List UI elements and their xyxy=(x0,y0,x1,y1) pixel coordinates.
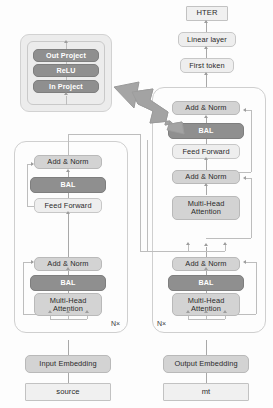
node-hter: HTER xyxy=(186,6,228,21)
encoder-repeat-label: N× xyxy=(111,320,120,327)
diagram-canvas: HTER Linear layer First token Out Projec… xyxy=(0,0,273,408)
encoder-output-into-crossattn xyxy=(140,251,206,252)
decoder-arrowhead-cross xyxy=(204,243,208,246)
decoder-selfattn-fan-ah-right xyxy=(223,310,227,313)
encoder-residual2-left xyxy=(27,164,28,206)
decoder-crossattn-fan-left xyxy=(188,244,189,251)
node-out-project: Out Project xyxy=(33,49,99,62)
node-encoder-bal-1: BAL xyxy=(30,275,106,291)
decoder-residual3-arrowhead xyxy=(243,108,246,112)
node-decoder-add-norm-2: Add & Norm xyxy=(172,170,240,184)
node-decoder-cross-attention: Multi-Head Attention xyxy=(172,196,240,220)
decoder-residual2-right xyxy=(251,178,252,238)
decoder-spine-addnorm1-to-cross xyxy=(206,247,207,257)
connector-decoder-to-firsttoken xyxy=(206,73,207,87)
decoder-residual3-top xyxy=(246,110,251,111)
node-output-embedding: Output Embedding xyxy=(163,355,249,373)
connector-inputembed-to-encoder xyxy=(68,340,69,356)
decoder-selfattn-fan-ah-mid xyxy=(204,310,208,313)
encoder-arrowhead-addnorm2 xyxy=(66,169,70,172)
node-encoder-bal-2: BAL xyxy=(30,177,106,193)
arrowhead-decoder-to-firsttoken xyxy=(204,72,208,75)
node-first-token: First token xyxy=(180,58,234,73)
encoder-output-descender xyxy=(140,134,141,251)
encoder-selfattn-fan-ah-right xyxy=(85,310,89,313)
decoder-residual3-right xyxy=(251,110,252,172)
bal-inset-arrowhead-top xyxy=(64,40,68,43)
node-linear-layer: Linear layer xyxy=(178,32,236,47)
bal-callout-arrow xyxy=(108,78,188,140)
node-encoder-add-norm-2: Add & Norm xyxy=(34,155,102,169)
decoder-crossattn-fan-right xyxy=(225,244,226,251)
decoder-residual2-top xyxy=(246,178,251,179)
decoder-arrowhead-addnorm2 xyxy=(204,183,208,186)
node-relu: ReLU xyxy=(33,64,99,77)
encoder-residual1-arrowhead xyxy=(31,260,34,264)
bal-inset-arrowhead-bottom xyxy=(64,92,68,95)
encoder-output-riser xyxy=(68,134,69,156)
bal-inset-spine-bottom xyxy=(66,96,67,105)
decoder-residual1-right xyxy=(256,262,257,314)
decoder-spine-addnorm2-to-ff xyxy=(206,159,207,170)
arrowhead-firsttoken-to-linear xyxy=(204,46,208,49)
decoder-residual1-top xyxy=(246,262,256,263)
decoder-crossattn-fan-ah-right xyxy=(223,242,227,245)
decoder-input-corridor xyxy=(147,140,148,252)
decoder-arrowhead-addnorm1 xyxy=(204,267,208,270)
decoder-spine-cross-to-addnorm2 xyxy=(206,185,207,195)
encoder-selfattn-fan-ah-left xyxy=(48,310,52,313)
encoder-selfattn-fan-ah-mid xyxy=(66,310,70,313)
node-mt: mt xyxy=(163,383,249,401)
decoder-residual2-bottom xyxy=(206,238,251,239)
decoder-arrowhead-ff xyxy=(204,157,208,160)
decoder-arrowhead-addnorm3 xyxy=(204,115,208,118)
encoder-residual1-left xyxy=(23,262,24,314)
node-decoder-bal-1: BAL xyxy=(168,275,244,291)
encoder-arrowhead-ff xyxy=(66,211,70,214)
decoder-repeat-label: N× xyxy=(157,320,166,327)
node-input-embedding: Input Embedding xyxy=(25,355,111,373)
node-source: source xyxy=(25,383,111,401)
decoder-selfattn-fan-bar xyxy=(188,319,225,320)
decoder-residual1-arrowhead xyxy=(243,260,246,264)
encoder-arrowhead-addnorm1 xyxy=(66,267,70,270)
decoder-selfattn-fan-ah-left xyxy=(186,310,190,313)
encoder-residual2-arrowhead xyxy=(31,162,34,166)
encoder-spine-addnorm1-to-ff xyxy=(68,213,69,257)
decoder-crossattn-fan-ah-left xyxy=(186,242,190,245)
connector-outputembed-to-decoder xyxy=(206,340,207,356)
encoder-selfattn-fan-bar xyxy=(50,319,87,320)
arrowhead-linear-to-hter xyxy=(204,20,208,23)
decoder-residual2-arrowhead xyxy=(243,176,246,180)
